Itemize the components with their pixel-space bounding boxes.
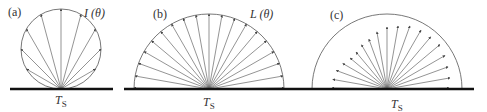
panel-a-ts-sub: S: [62, 99, 67, 109]
panel-c-ts-sub: S: [398, 103, 403, 112]
panel-a-quantity: I (θ): [83, 6, 105, 20]
panel-b-rays: [134, 14, 284, 89]
panel-b-surface-temp-label: TS: [203, 95, 215, 111]
panel-a: (a) I (θ) TS: [8, 5, 113, 109]
ray-arrow: [41, 14, 61, 89]
panel-c-label: (c): [330, 8, 343, 22]
ray-arrow: [61, 14, 81, 89]
panel-a-surface-temp-label: TS: [55, 93, 67, 109]
panel-b-quantity-symbol: L: [249, 7, 257, 21]
panel-b-label: (b): [153, 7, 167, 21]
panel-b: (b) L (θ) TS: [124, 7, 303, 111]
ray-arrow: [61, 29, 96, 89]
panel-a-quantity-arg: (θ): [91, 6, 105, 20]
panel-b-ts-sub: S: [210, 101, 215, 111]
radiation-diagram: (a) I (θ) TS (b) L (θ) TS (c) TS: [0, 0, 487, 112]
panel-a-rays: [21, 9, 101, 89]
panel-c-rays: [332, 26, 450, 89]
ray-arrow: [26, 29, 61, 89]
panel-b-quantity-arg: (θ): [259, 7, 273, 21]
panel-c-surface-temp-label: TS: [391, 97, 403, 112]
panel-a-label: (a): [8, 5, 21, 19]
panel-c: (c) TS: [303, 8, 474, 112]
panel-b-quantity: L (θ): [249, 7, 273, 21]
panel-a-quantity-symbol: I: [83, 6, 89, 20]
